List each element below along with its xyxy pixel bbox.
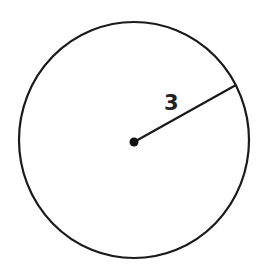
radius-label: 3 (164, 91, 179, 115)
circle-diagram: 3 (0, 0, 262, 275)
center-point (130, 138, 139, 147)
radius-line (134, 85, 236, 142)
